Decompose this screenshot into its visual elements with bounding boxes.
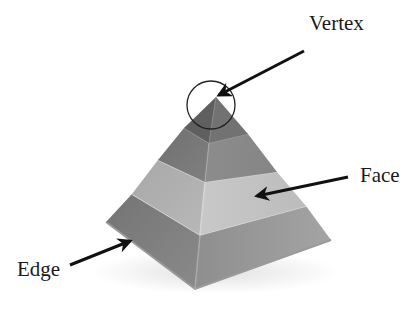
vertex-arrow bbox=[219, 51, 304, 95]
vertex-label: Vertex bbox=[309, 13, 364, 34]
edge-label: Edge bbox=[17, 259, 60, 280]
face-label: Face bbox=[360, 165, 400, 186]
pyramid-diagram bbox=[0, 0, 418, 309]
